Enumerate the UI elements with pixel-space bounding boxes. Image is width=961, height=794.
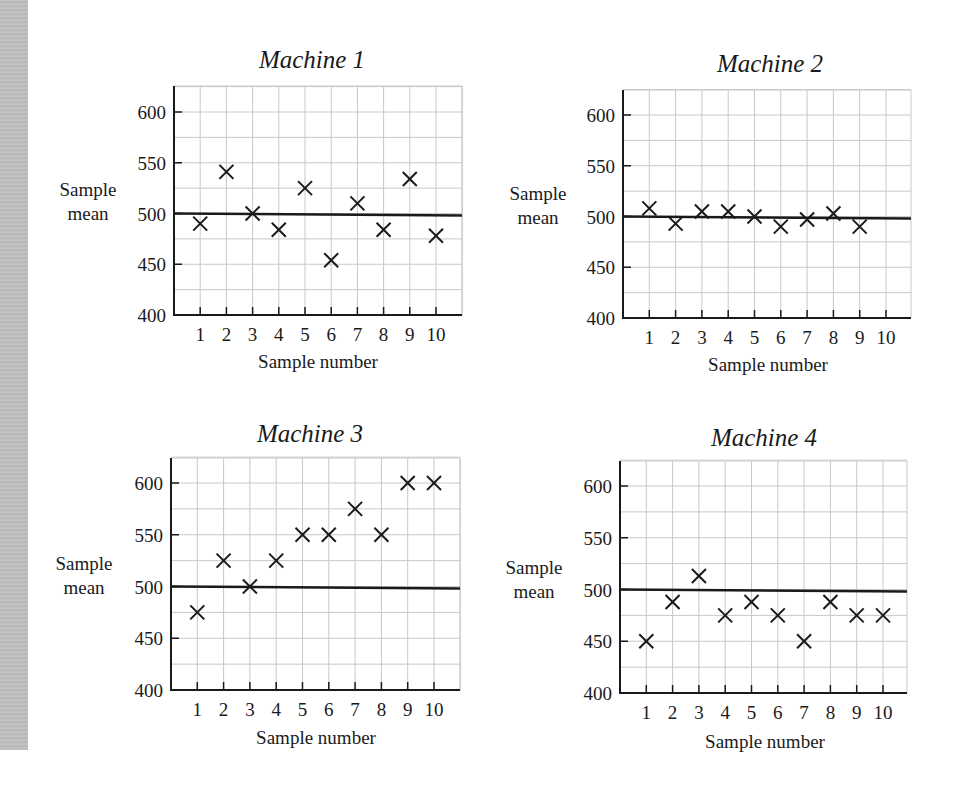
x-tick-label: 7: [799, 702, 809, 723]
x-tick-label: 5: [747, 702, 757, 723]
grid: [620, 460, 907, 693]
chart-machine-4: Machine 4 Samplemean Sample number 40045…: [0, 0, 450, 380]
x-tick-label: 3: [694, 702, 704, 723]
y-tick-label: 600: [584, 476, 613, 497]
data-points: [639, 569, 890, 648]
x-tick-label: 9: [852, 702, 862, 723]
y-tick-label: 500: [584, 580, 613, 601]
x-tick-label: 2: [668, 702, 678, 723]
x-tick-label: 1: [642, 702, 652, 723]
x-tick-label: 4: [720, 702, 730, 723]
x-tick-label: 6: [773, 702, 783, 723]
x-tick-label: 8: [826, 702, 836, 723]
y-tick-label: 400: [584, 683, 613, 704]
plot-area: 40045050055060012345678910: [0, 0, 961, 794]
y-tick-label: 450: [584, 631, 613, 652]
x-tick-label: 10: [874, 702, 893, 723]
y-tick-label: 550: [584, 528, 613, 549]
